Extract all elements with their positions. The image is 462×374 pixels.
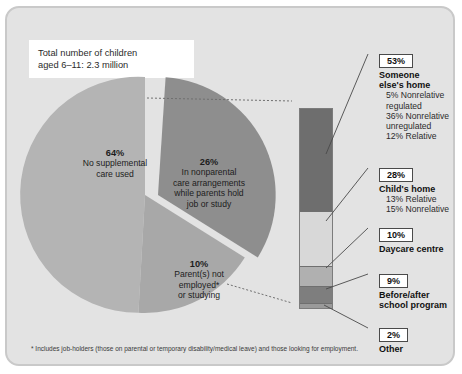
callout-10-pct-badge: 10% xyxy=(379,228,413,242)
callout-9-heading-2: school program xyxy=(379,300,462,310)
callout-before-after-school: 9% Before/after school program xyxy=(379,270,462,310)
callout-childs-home: 28% Child's home 13% Relative 15% Nonrel… xyxy=(379,164,462,215)
callout-28-sub-2: 15% Nonrelative xyxy=(379,204,462,214)
connector-9 xyxy=(326,274,368,289)
callout-53-heading-1: Someone xyxy=(379,70,462,80)
connector-53 xyxy=(326,54,368,154)
callout-someone-elses-home: 53% Someone else's home 5% Nonrelative r… xyxy=(379,50,462,141)
callout-53-pct-badge: 53% xyxy=(379,54,413,68)
callout-53-sub-1: 5% Nonrelative xyxy=(379,90,462,100)
callout-2-pct-badge: 2% xyxy=(379,328,408,342)
chart-frame: Total number of children aged 6–11: 2.3 … xyxy=(5,6,455,366)
callout-28-heading-1: Child's home xyxy=(379,184,462,194)
callout-53-heading-2: else's home xyxy=(379,80,462,90)
callout-53-sub-4: unregulated xyxy=(379,121,462,131)
callout-daycare-centre: 10% Daycare centre xyxy=(379,224,462,254)
callout-53-sub-2: regulated xyxy=(379,101,462,111)
callout-9-heading-1: Before/after xyxy=(379,290,462,300)
callout-9-pct-badge: 9% xyxy=(379,274,408,288)
callout-53-sub-5: 12% Relative xyxy=(379,131,462,141)
callout-28-sub-1: 13% Relative xyxy=(379,194,462,204)
connector-28 xyxy=(326,168,368,221)
callout-10-heading-1: Daycare centre xyxy=(379,244,462,254)
callout-53-sub-3: 36% Nonrelative xyxy=(379,111,462,121)
connector-10 xyxy=(326,228,368,268)
connector-2 xyxy=(324,305,368,328)
footnote: * Includes job-holders (those on parenta… xyxy=(31,345,431,353)
callout-28-pct-badge: 28% xyxy=(379,168,413,182)
